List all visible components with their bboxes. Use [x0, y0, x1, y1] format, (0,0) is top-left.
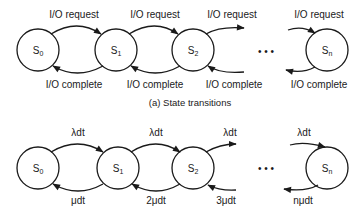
arc-complete-n-in — [286, 67, 315, 71]
state-label-s1-b: S1 — [113, 163, 124, 175]
arc-lambda-2-out — [206, 144, 236, 152]
arc-request-0-1 — [51, 26, 101, 34]
ellipsis-a: • • • — [258, 46, 275, 57]
caption-a: (a) State transitions — [149, 97, 232, 108]
label-request-0: I/O request — [49, 9, 99, 20]
arc-request-1-2 — [129, 26, 178, 34]
label-lambda-1: λdt — [149, 127, 163, 138]
label-lambda-0: λdt — [71, 127, 85, 138]
label-request-2: I/O request — [207, 9, 257, 20]
label-complete-n: I/O complete — [291, 79, 348, 90]
label-complete-0: I/O complete — [46, 79, 103, 90]
label-mu-n: nμdt — [293, 195, 313, 206]
label-complete-1: I/O complete — [127, 79, 184, 90]
state-label-s2-b: S2 — [188, 163, 199, 175]
arc-lambda-1-2 — [131, 144, 180, 152]
arc-complete-out-2 — [208, 66, 244, 72]
label-complete-2: I/O complete — [206, 79, 263, 90]
state-label-s0-a: S0 — [33, 45, 44, 57]
state-label-s0-b: S0 — [33, 163, 44, 175]
arc-mu-1-0 — [53, 184, 103, 191]
diagram-b-text: S0 S1 S2 Sn λdt λdt λdt λdt μdt 2μdt 3μd… — [33, 127, 333, 206]
arc-complete-2-1 — [131, 66, 180, 73]
arc-lambda-0-1 — [51, 144, 103, 152]
state-label-sn-b: Sn — [322, 163, 333, 175]
arc-complete-1-0 — [53, 66, 103, 73]
label-mu-0: μdt — [71, 195, 85, 206]
state-label-sn-a: Sn — [322, 45, 333, 57]
label-lambda-2: λdt — [223, 127, 237, 138]
diagram-a — [17, 26, 348, 73]
arc-lambda-in-n — [290, 143, 325, 147]
state-diagram: S0 S1 S2 Sn I/O request I/O request I/O … — [0, 0, 363, 213]
arc-request-2-out — [206, 28, 244, 34]
arc-request-in-n — [288, 28, 315, 33]
ellipsis-b: • • • — [258, 163, 275, 174]
label-request-1: I/O request — [130, 9, 180, 20]
state-label-s1-a: S1 — [111, 45, 122, 57]
state-label-s2-a: S2 — [188, 45, 199, 57]
arc-mu-n-in — [284, 185, 318, 190]
label-lambda-n: λdt — [297, 127, 311, 138]
diagram-a-text: S0 S1 S2 Sn I/O request I/O request I/O … — [33, 9, 348, 108]
arc-mu-out-2 — [208, 185, 236, 190]
label-mu-2: 3μdt — [216, 195, 236, 206]
label-request-n: I/O request — [294, 9, 344, 20]
arc-mu-2-1 — [132, 184, 180, 191]
label-mu-1: 2μdt — [146, 195, 166, 206]
diagram-b — [17, 143, 348, 191]
